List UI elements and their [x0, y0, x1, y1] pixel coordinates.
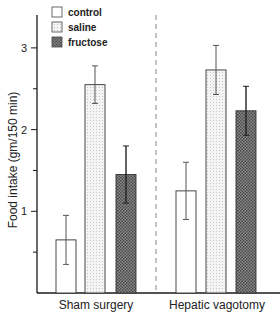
bar-saline-sham [85, 85, 105, 293]
y-tick-label: 1 [21, 205, 27, 217]
legend-label-saline: saline [68, 22, 97, 33]
group-label-hepatic-vagotomy: Hepatic vagotomy [169, 298, 265, 312]
y-axis-label: Food intake (gm/150 min) [6, 92, 20, 229]
bar-saline-hepatic [206, 70, 226, 293]
legend-label-fructose: fructose [68, 37, 108, 48]
bar-fructose-hepatic [236, 111, 256, 293]
bar-chart: Food intake (gm/150 min) 123 control sal… [0, 0, 280, 318]
legend: control saline fructose [52, 7, 108, 48]
legend-swatch-saline [52, 22, 62, 32]
y-axis-ticks: 123 [21, 42, 37, 252]
legend-label-control: control [68, 7, 102, 18]
y-tick-label: 2 [21, 124, 27, 136]
group-label-sham-surgery: Sham surgery [59, 298, 134, 312]
legend-swatch-fructose [52, 37, 62, 47]
legend-swatch-control [52, 7, 62, 17]
y-tick-label: 3 [21, 42, 27, 54]
